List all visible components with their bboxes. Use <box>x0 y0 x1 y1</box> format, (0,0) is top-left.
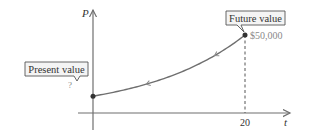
present-future-value-chart: P t 20 Present value ? Future value $50,… <box>0 0 309 138</box>
present-value-unknown: ? <box>68 80 72 90</box>
future-value-point[interactable] <box>243 33 248 38</box>
x-tick-label-20: 20 <box>240 117 250 128</box>
y-axis-label: P <box>81 7 89 19</box>
future-value-amount: $50,000 <box>250 30 283 41</box>
future-value-label: Future value <box>229 13 282 24</box>
present-value-point[interactable] <box>91 94 96 99</box>
present-value-callout: Present value <box>25 62 88 81</box>
value-curve <box>93 35 245 96</box>
x-axis-label: t <box>284 116 288 128</box>
present-value-label: Present value <box>28 64 85 75</box>
